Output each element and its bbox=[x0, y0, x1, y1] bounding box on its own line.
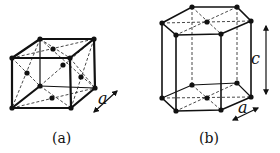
atom bbox=[173, 108, 178, 113]
lattice-param-c-label: c bbox=[251, 49, 260, 68]
atom bbox=[189, 4, 194, 9]
face-atom bbox=[24, 70, 29, 75]
crystal-structures-diagram: a (a) bbox=[0, 0, 280, 153]
lattice-param-a-label: a bbox=[98, 89, 108, 108]
atom bbox=[159, 20, 164, 25]
face-atom bbox=[78, 74, 83, 79]
atom bbox=[189, 82, 194, 87]
atom bbox=[92, 85, 97, 90]
cube-back-bottom-edge bbox=[40, 86, 95, 88]
atom bbox=[218, 31, 223, 36]
atom bbox=[248, 94, 253, 99]
cube-structure: a (a) bbox=[9, 36, 117, 146]
atom bbox=[234, 4, 239, 9]
face-atom bbox=[60, 62, 65, 67]
face-atom bbox=[49, 95, 54, 100]
atom bbox=[159, 95, 164, 100]
atom bbox=[91, 36, 96, 41]
cube-diagonal bbox=[40, 39, 95, 88]
face-atom bbox=[50, 46, 55, 51]
atom bbox=[37, 36, 42, 41]
atom bbox=[248, 18, 253, 23]
atom bbox=[68, 105, 73, 110]
atom bbox=[218, 107, 223, 112]
lattice-param-a-hex-label: a bbox=[238, 98, 248, 117]
center-atom bbox=[204, 95, 209, 100]
atom bbox=[9, 105, 14, 110]
hexagonal-structure: c a (b) bbox=[159, 4, 266, 146]
center-atom bbox=[204, 19, 209, 24]
atom bbox=[67, 55, 72, 60]
atom bbox=[9, 55, 14, 60]
panel-a-caption: (a) bbox=[52, 130, 71, 146]
atom bbox=[234, 80, 239, 85]
atom bbox=[37, 83, 42, 88]
panel-b-caption: (b) bbox=[199, 130, 219, 146]
cube-diagonal bbox=[40, 86, 71, 108]
atom bbox=[173, 32, 178, 37]
